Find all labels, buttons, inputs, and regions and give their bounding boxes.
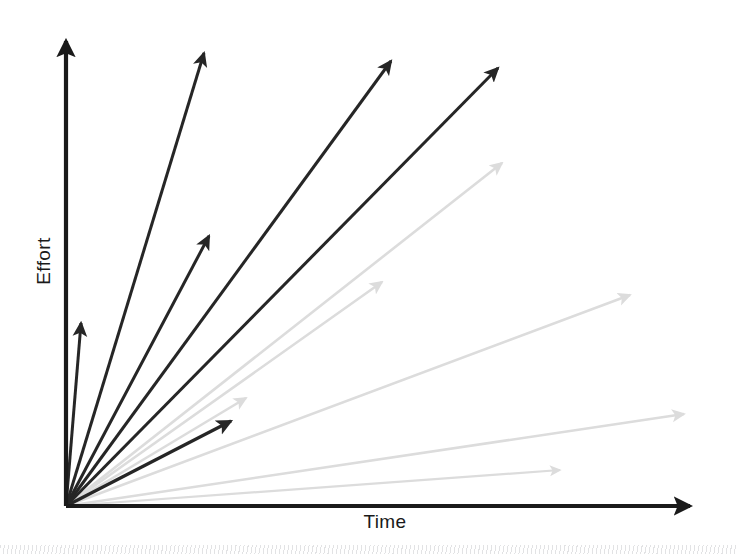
x-axis-label: Time xyxy=(330,511,440,533)
effort-vector-arrow xyxy=(66,61,391,506)
effort-vector-arrow xyxy=(66,236,209,506)
effort-vector-arrow xyxy=(66,470,560,506)
scanned-page-edge-noise xyxy=(0,545,736,554)
figure-root: Effort Time xyxy=(0,0,736,554)
effort-vector-arrow xyxy=(66,282,382,506)
dark-effort-vector-group xyxy=(66,53,498,506)
vector-fan-chart xyxy=(0,0,736,554)
axes-group xyxy=(66,41,690,506)
effort-vector-arrow xyxy=(66,295,630,506)
effort-vector-arrow xyxy=(66,68,498,506)
effort-vector-arrow xyxy=(66,163,502,506)
y-axis-label: Effort xyxy=(33,225,55,297)
light-effort-vector-group xyxy=(66,163,684,506)
